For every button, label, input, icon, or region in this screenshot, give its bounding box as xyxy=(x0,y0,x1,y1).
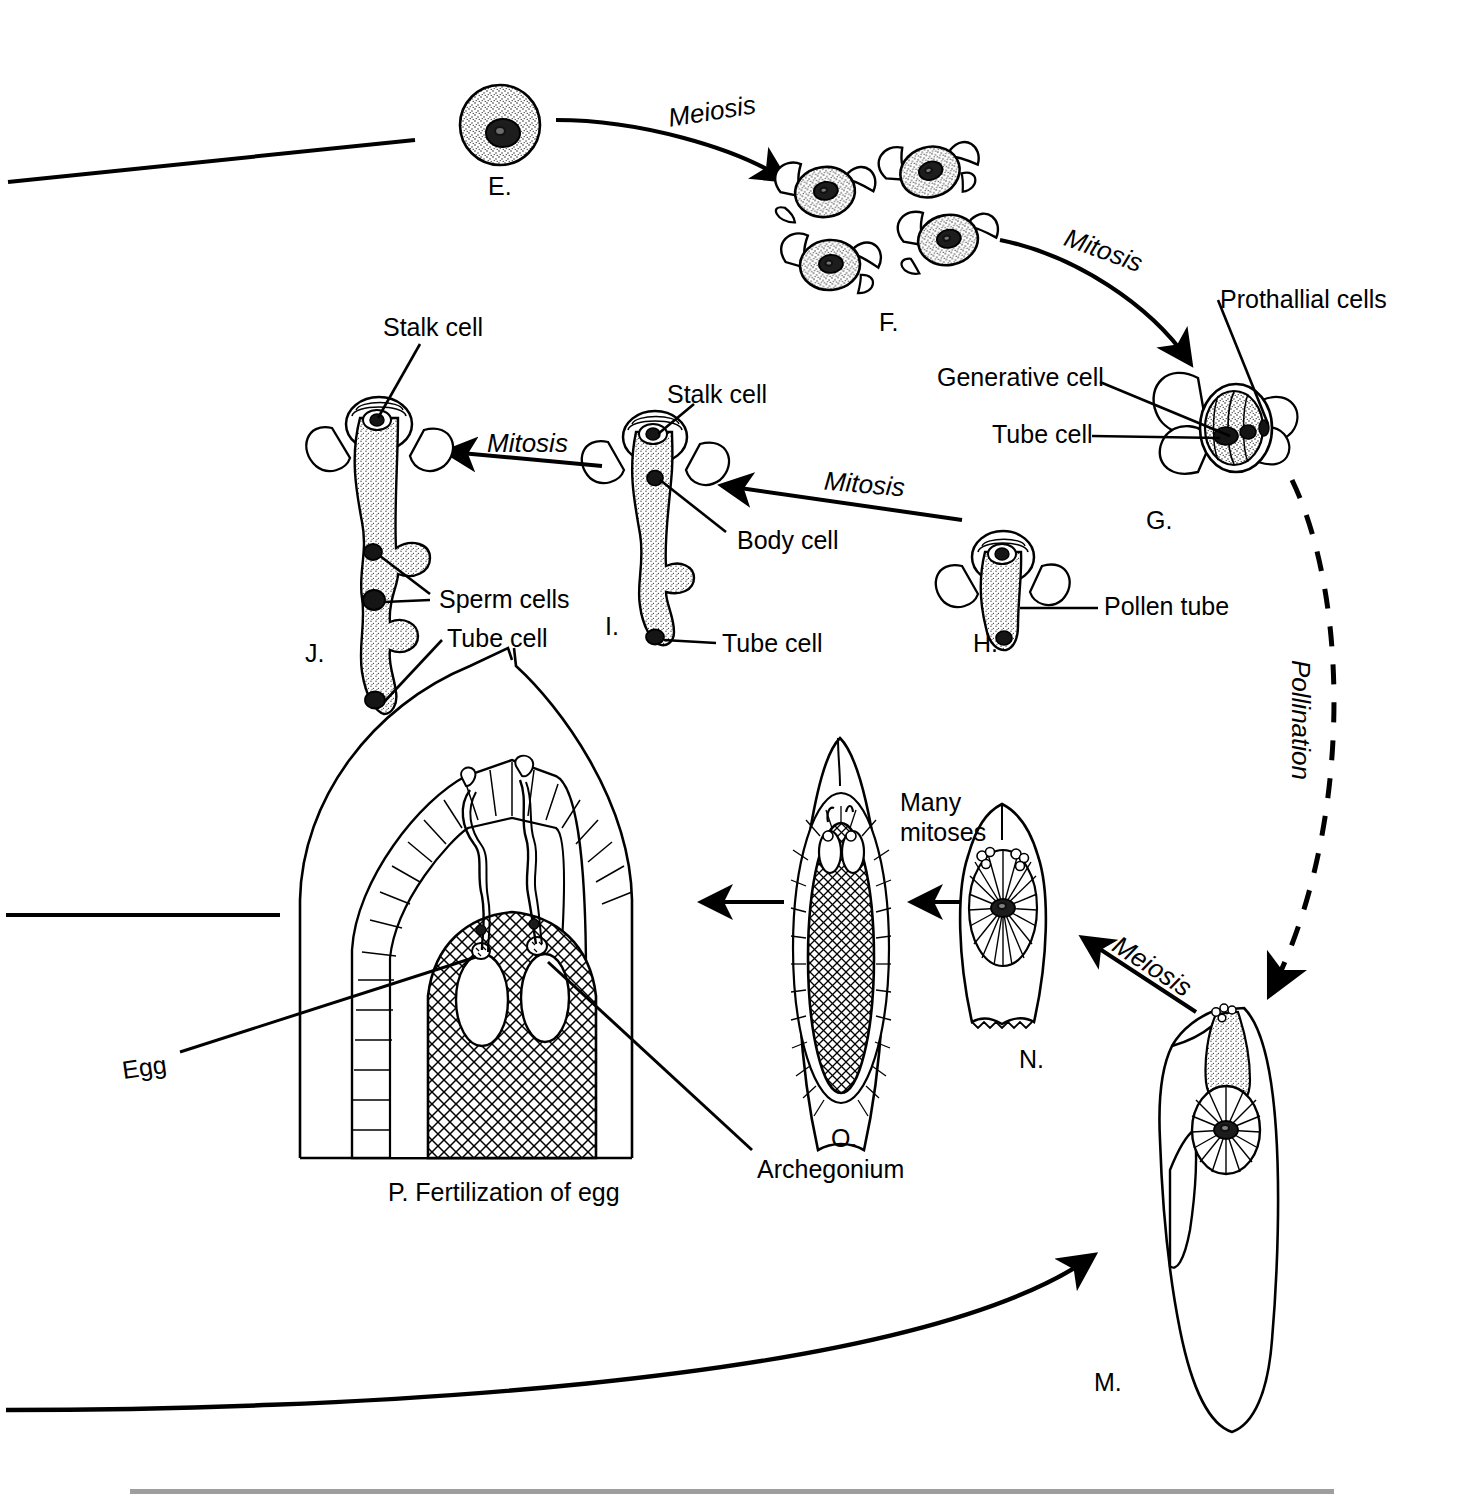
part-label-prothallial-cells: Prothallial cells xyxy=(1220,285,1387,313)
stage-label-j: J. xyxy=(305,639,324,667)
stage-j-pollen-tube-sperm xyxy=(306,397,453,714)
part-label-tube-cell-i: Tube cell xyxy=(722,629,823,657)
process-label-pollination: Pollination xyxy=(1286,660,1315,780)
process-label-many-mitoses-line1: Many xyxy=(900,788,961,816)
stage-p-fertilization xyxy=(300,648,637,1158)
stage-label-m: M. xyxy=(1094,1368,1122,1396)
arrow-bottom-cycle xyxy=(6,1258,1090,1410)
process-label-many-mitoses-line2: mitoses xyxy=(900,818,986,846)
leader-tube-cell-i xyxy=(664,640,716,643)
part-label-pollen-tube: Pollen tube xyxy=(1104,592,1229,620)
stage-label-p: P. Fertilization of egg xyxy=(388,1178,620,1206)
leader-line-top-left xyxy=(8,140,415,182)
part-label-archegonium: Archegonium xyxy=(757,1155,904,1183)
stage-i-pollen-tube xyxy=(582,411,729,645)
part-label-sperm-cells: Sperm cells xyxy=(439,585,570,613)
stage-label-i: I. xyxy=(605,612,619,640)
stage-o-female-gametophyte xyxy=(791,738,891,1150)
page-edge-artifact xyxy=(130,1489,1334,1494)
stage-f-microspores xyxy=(770,125,1004,298)
diagram-artwork xyxy=(0,0,1464,1502)
stage-label-e: E. xyxy=(488,172,512,200)
stage-label-g: G. xyxy=(1146,506,1172,534)
stage-e-microspore-mother-cell xyxy=(460,85,540,165)
part-label-body-cell: Body cell xyxy=(737,526,838,554)
arrow-meiosis-top xyxy=(556,120,782,178)
part-label-tube-cell-j: Tube cell xyxy=(447,624,548,652)
part-label-stalk-cell-i: Stalk cell xyxy=(667,380,767,408)
pine-life-cycle-diagram: E. F. G. H. I. J. M. N. O. P. Fertilizat… xyxy=(0,0,1464,1502)
process-label-mitosis-middle-left: Mitosis xyxy=(487,429,568,458)
stage-h-germinating-pollen xyxy=(936,531,1070,650)
stage-label-n: N. xyxy=(1019,1045,1044,1073)
part-label-stalk-cell-j: Stalk cell xyxy=(383,313,483,341)
part-label-generative-cell: Generative cell xyxy=(937,363,1104,391)
stage-label-f: F. xyxy=(879,308,898,336)
part-label-tube-cell-g: Tube cell xyxy=(992,420,1093,448)
stage-m-ovuliferous-scale xyxy=(1160,1004,1279,1432)
leader-body-cell xyxy=(660,480,726,532)
stage-label-h: H. xyxy=(973,629,998,657)
stage-g-pollen-grain xyxy=(1154,373,1298,474)
stage-label-o: O. xyxy=(831,1124,857,1152)
